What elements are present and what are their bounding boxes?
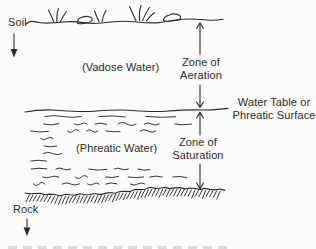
phreatic-water-label: (Phreatic Water) (76, 142, 157, 155)
vadose-water-label: (Vadose Water) (82, 61, 159, 74)
zone-of-aeration-label-line1: Zone of (180, 56, 222, 69)
ground-surface-line (26, 19, 223, 24)
rock-arrow (24, 219, 31, 236)
zone-of-saturation-label: Zone of Saturation (172, 136, 223, 161)
water-table-line (25, 108, 228, 112)
grass-tuft-icon (49, 6, 155, 23)
zone-of-aeration-label-line2: Aeration (180, 69, 222, 82)
zone-of-saturation-label-line1: Zone of (172, 136, 223, 149)
water-table-label-line1: Water Table or (233, 96, 316, 109)
rock-label: Rock (13, 203, 38, 216)
water-table-label-line2: Phreatic Surface (233, 109, 316, 122)
rock-surface-hatching (25, 187, 225, 204)
zone-of-aeration-label: Zone of Aeration (180, 56, 222, 81)
groundwater-zones-diagram: Soil (Vadose Water) Zone of Aeration Wat… (0, 0, 316, 249)
soil-label: Soil (8, 16, 27, 29)
zone-of-saturation-label-line2: Saturation (172, 149, 223, 162)
diagram-canvas (0, 0, 316, 249)
soil-arrow (11, 34, 18, 58)
water-table-label: Water Table or Phreatic Surface (233, 96, 316, 121)
